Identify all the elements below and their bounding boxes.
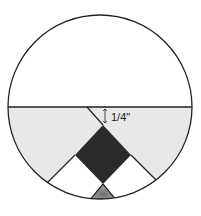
- quilt-circle-diagram: [0, 0, 201, 216]
- measurement-label: 1/4": [111, 111, 130, 123]
- upper-half: [0, 0, 201, 107]
